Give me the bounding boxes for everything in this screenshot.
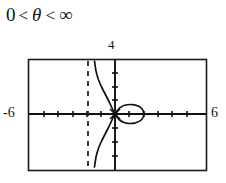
graph-viewport <box>0 0 226 183</box>
plot-frame <box>29 60 207 171</box>
